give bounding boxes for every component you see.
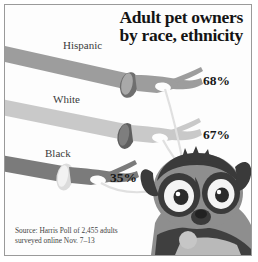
- category-label-white: White: [53, 93, 80, 105]
- source-line-1: Source: Harris Poll of 2,455 adults: [15, 226, 165, 236]
- infographic-root: Adult pet owners by race, ethnicity Hisp…: [0, 0, 258, 262]
- value-label-black: 35%: [110, 170, 137, 186]
- dog-fur-tuft: [181, 146, 211, 162]
- arm-white: [5, 99, 202, 150]
- category-label-black: Black: [45, 147, 71, 159]
- arm-hispanic: [5, 45, 203, 100]
- value-label-white: 67%: [203, 127, 230, 143]
- dog-pupil-left: [174, 189, 189, 205]
- dog-pupil-right: [215, 188, 229, 203]
- title-line-1: Adult pet owners: [119, 7, 243, 27]
- source-line-2: surveyed online Nov. 7–13: [15, 236, 165, 246]
- dog-tag: [179, 231, 197, 249]
- value-label-hispanic: 68%: [203, 73, 230, 89]
- infographic-frame: Adult pet owners by race, ethnicity Hisp…: [4, 4, 252, 256]
- source-note: Source: Harris Poll of 2,455 adults surv…: [15, 226, 165, 246]
- title-line-2: by race, ethnicity: [99, 27, 243, 45]
- page-title: Adult pet owners by race, ethnicity: [99, 9, 243, 45]
- category-label-hispanic: Hispanic: [63, 39, 102, 51]
